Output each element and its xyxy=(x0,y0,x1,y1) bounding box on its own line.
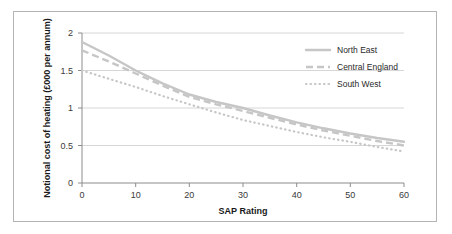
y-tick-label: 2 xyxy=(68,28,73,38)
x-tick-label: 50 xyxy=(345,190,355,200)
x-axis-title: SAP Rating xyxy=(219,206,268,216)
legend-label-central-england: Central England xyxy=(337,62,398,72)
legend-label-north-east: North East xyxy=(337,45,378,55)
x-tick-label: 0 xyxy=(79,190,84,200)
y-axis-title: Notional cost of heating (£000 per annum… xyxy=(42,18,52,198)
x-tick-label: 60 xyxy=(399,190,409,200)
y-tick-label: 0.5 xyxy=(60,141,73,151)
chart-figure: 0 0.5 1 1.5 2 0 10 20 30 40 50 60 SAP Ra… xyxy=(0,0,452,234)
x-tick-label: 20 xyxy=(184,190,194,200)
line-chart-plot: 0 0.5 1 1.5 2 0 10 20 30 40 50 60 SAP Ra… xyxy=(0,0,452,234)
series-lines xyxy=(82,42,404,152)
x-tick-label: 10 xyxy=(131,190,141,200)
y-tick-label: 1 xyxy=(68,103,73,113)
x-tick-labels: 0 10 20 30 40 50 60 xyxy=(79,190,409,200)
y-tick-labels: 0 0.5 1 1.5 2 xyxy=(60,28,73,188)
y-tick-label: 0 xyxy=(68,178,73,188)
x-tick-label: 30 xyxy=(238,190,248,200)
x-tick-label: 40 xyxy=(292,190,302,200)
x-axis-ticks xyxy=(82,183,404,187)
chart-legend: North East Central England South West xyxy=(306,45,398,89)
y-tick-label: 1.5 xyxy=(60,66,73,76)
series-line-north-east xyxy=(82,42,404,142)
legend-label-south-west: South West xyxy=(337,79,381,89)
y-axis-ticks xyxy=(78,33,82,183)
